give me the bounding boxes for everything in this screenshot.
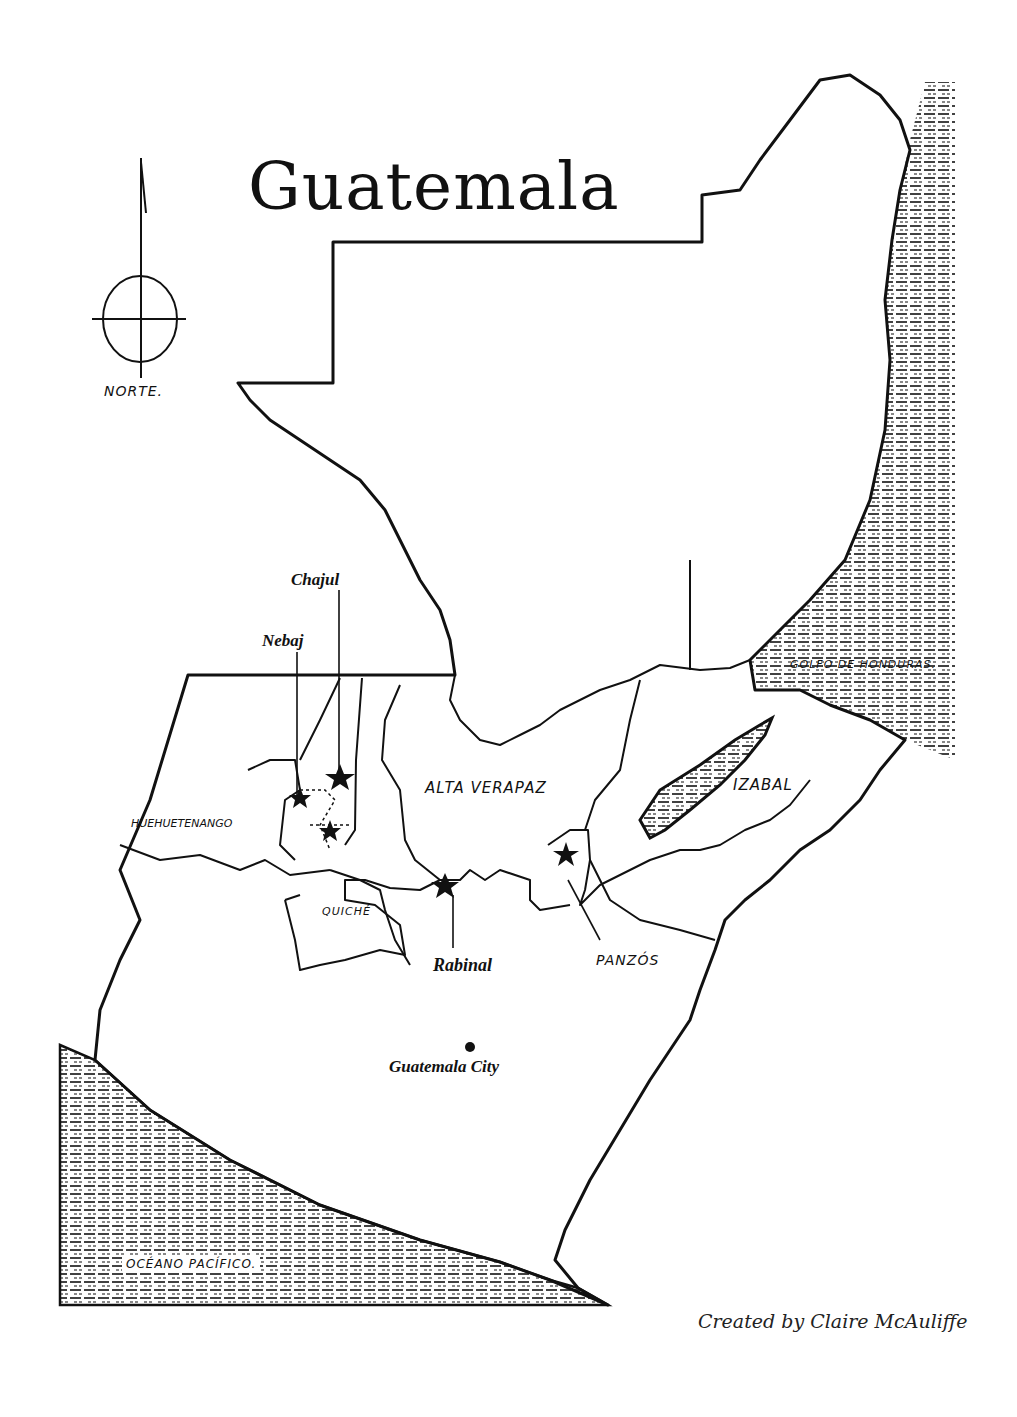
region-label-izabal: IZABAL	[733, 776, 793, 794]
region-label-quiche: QUICHÉ	[322, 905, 371, 918]
site-label-nebaj: Nebaj	[262, 631, 304, 651]
water-label-oceano-pacifico: OCÉANO PACÍFICO.	[122, 1257, 260, 1271]
map-title: Guatemala	[248, 148, 620, 225]
region-label-huehuetenango: HUEHUETENANGO	[131, 817, 232, 830]
capital-label: Guatemala City	[389, 1057, 499, 1077]
capital-dot-icon	[465, 1042, 475, 1052]
country-outline	[95, 75, 910, 1305]
compass-label: NORTE.	[104, 383, 163, 399]
star-icon	[325, 764, 355, 790]
star-icon	[319, 820, 341, 841]
credit-text: Created by Claire McAuliffe	[698, 1310, 968, 1332]
compass-icon	[92, 158, 186, 378]
star-icon	[553, 842, 579, 866]
water-label-golfo-de-honduras: GOLFO DE HONDURAS.	[790, 658, 936, 671]
site-label-rabinal: Rabinal	[433, 955, 492, 976]
region-label-alta-verapaz: ALTA VERAPAZ	[425, 779, 547, 797]
municipal-borders	[300, 790, 350, 850]
site-label-chajul: Chajul	[291, 570, 339, 590]
site-label-panzos: PANZÓS	[596, 952, 659, 968]
